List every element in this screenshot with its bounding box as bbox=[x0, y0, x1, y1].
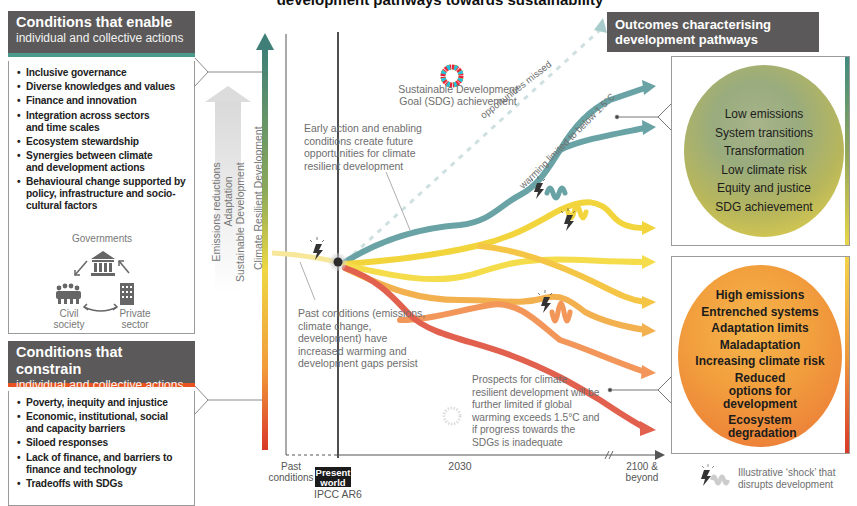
arrow-label-emissions: Emissions reductions bbox=[210, 162, 222, 282]
shock-legend-label: Illustrative ‘shock’ that disrupts devel… bbox=[738, 467, 850, 490]
past-conditions-note: Past conditions (emissions, climate chan… bbox=[298, 307, 430, 370]
present-world-badge: Present world bbox=[315, 467, 351, 487]
timeline-2030-label: 2030 bbox=[440, 461, 480, 472]
bad-outcomes-globe: High emissions Entrenched systems Adapta… bbox=[678, 265, 842, 447]
good-outcome: SDG achievement bbox=[684, 198, 844, 217]
good-outcome: Low climate risk bbox=[684, 161, 844, 180]
bad-outcome: Reduced options for development bbox=[678, 372, 842, 411]
bad-outcome: Entrenched systems bbox=[678, 304, 842, 321]
good-outcome: Transformation bbox=[684, 142, 844, 161]
enable-connector bbox=[195, 58, 265, 86]
bad-outcomes-gradient-bar bbox=[845, 257, 849, 453]
arrow-label-sustainable: Sustainable Development bbox=[234, 162, 246, 282]
bad-outcome: Increasing climate risk bbox=[678, 353, 842, 370]
legend-shock-icon bbox=[701, 464, 728, 486]
bad-outcome: Ecosystem degradation bbox=[678, 414, 842, 440]
good-outcomes-list: Low emissions System transitions Transfo… bbox=[684, 105, 844, 216]
bad-outcome: Adaptation limits bbox=[678, 320, 842, 337]
timeline-2100-label: 2100 & beyond bbox=[620, 461, 664, 483]
good-outcomes-gradient-bar bbox=[845, 57, 849, 245]
bad-outcomes-list: High emissions Entrenched systems Adapta… bbox=[678, 287, 842, 443]
gray-arrow-labels: Emissions reductions Adaptation Sustaina… bbox=[210, 162, 246, 282]
bad-outcome: Maladaptation bbox=[678, 337, 842, 354]
arrow-label-adaptation: Adaptation bbox=[222, 162, 234, 282]
past-path bbox=[272, 253, 338, 262]
timeline-past-label: Past conditions bbox=[268, 461, 314, 483]
outcomes-heading: Outcomes characterising development path… bbox=[607, 12, 819, 52]
constrain-connector bbox=[195, 386, 265, 414]
prospects-note: Prospects for climate resilient developm… bbox=[472, 374, 602, 449]
good-outcomes-panel: Low emissions System transitions Transfo… bbox=[671, 56, 850, 246]
opportunities-missed-arrowhead bbox=[594, 18, 607, 33]
present-node bbox=[334, 258, 343, 267]
faded-sdg-wheel-icon bbox=[444, 408, 460, 424]
good-outcome: System transitions bbox=[684, 124, 844, 143]
bad-outcome: High emissions bbox=[678, 287, 842, 304]
outcome-connectors bbox=[608, 104, 671, 403]
pathway-arrowheads bbox=[640, 80, 656, 436]
early-action-note: Early action and enabling conditions cre… bbox=[304, 122, 424, 172]
lightning-icons bbox=[313, 183, 574, 313]
yellow-to-orange bbox=[480, 246, 645, 302]
crd-axis-label: Climate Resilient Development bbox=[252, 126, 264, 270]
good-outcomes-globe: Low emissions System transitions Transfo… bbox=[684, 65, 844, 237]
time-axis-arrow bbox=[655, 450, 665, 460]
present-line2: world bbox=[315, 478, 351, 488]
good-outcome: Low emissions bbox=[684, 105, 844, 124]
bad-outcomes-panel: High emissions Entrenched systems Adapta… bbox=[671, 256, 850, 454]
ipcc-ar6-label: IPCC AR6 bbox=[308, 489, 368, 500]
good-outcome: Equity and justice bbox=[684, 179, 844, 198]
